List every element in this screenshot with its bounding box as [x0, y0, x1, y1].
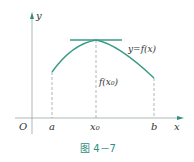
x-axis-arrow-icon [177, 116, 184, 120]
tick-label-x0: x₀ [90, 121, 100, 132]
y-axis-arrow-icon [30, 12, 34, 19]
value-label: f(x₀) [98, 77, 119, 87]
function-max-diagram: y y=f(x) f(x₀) O a x₀ b x 图 4－7 [0, 0, 194, 162]
y-axis-label: y [35, 10, 42, 21]
tick-label-b: b [151, 121, 157, 132]
figure-caption: 图 4－7 [80, 143, 116, 154]
curve-label: y=f(x) [127, 44, 157, 54]
x-axis-label: x [174, 121, 180, 132]
tick-label-a: a [49, 121, 55, 132]
origin-label: O [19, 121, 27, 132]
